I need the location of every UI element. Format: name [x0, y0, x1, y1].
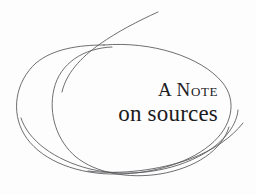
lower-right-tail-path [88, 123, 243, 172]
page-title: A Note on sources [0, 80, 218, 125]
chapter-heading-page: A Note on sources [0, 0, 256, 195]
page-title-line-one: A Note [0, 80, 218, 99]
page-title-line-two: on sources [0, 102, 218, 125]
